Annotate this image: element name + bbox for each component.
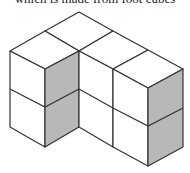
cube-faces [10,12,183,166]
cube-figure [0,0,190,173]
